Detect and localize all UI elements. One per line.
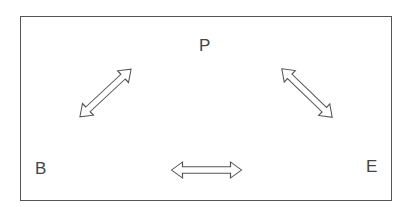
double-arrow-p-e-icon [276,63,337,123]
arrows-layer [0,0,411,207]
double-arrow-b-p-icon [74,63,136,122]
double-arrow-b-e-icon [172,162,242,178]
